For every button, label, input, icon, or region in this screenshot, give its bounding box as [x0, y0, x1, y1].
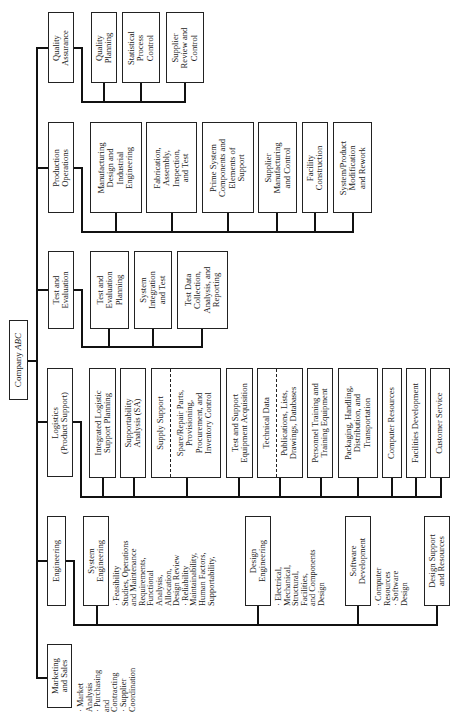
root-company-box: Company ABC [9, 320, 28, 400]
label-container: Fabrication,Assembly,Inspection,and Test [153, 147, 191, 188]
box-label: Supportability, [208, 540, 217, 606]
box-label: Manufacturing [273, 142, 282, 193]
eng-software-development-notes: · Computer Resources· Software Design [375, 568, 409, 606]
label-container: Supply Support [156, 396, 165, 450]
box-label: Engineering [125, 142, 134, 193]
box-label: Support [237, 138, 246, 196]
log-drop [133, 477, 135, 497]
label-container: SystemIntegrationand Test [139, 271, 167, 309]
label-container: System/ProductModificationand Rework [338, 140, 366, 194]
label-container: Packaging, Handling,Distribution, andTra… [344, 386, 372, 460]
log-packaging-handling: Packaging, Handling,Distribution, andTra… [338, 368, 378, 478]
box-label: Design [401, 568, 410, 606]
log-technical-data: Technical Data Publications, Lists,Drawi… [257, 368, 303, 478]
mkt-notes: · Market Analysis· Purchasing and Contra… [77, 668, 137, 712]
box-label: Analysis (SA) [133, 398, 142, 447]
label-container: SystemEngineering [87, 540, 106, 582]
eng-design-engineering-notes: · Electrical, Mechanical, Structural, Fa… [275, 549, 327, 606]
box-label: Collection, [193, 267, 202, 314]
log-facilities-development: Facilities Development [406, 368, 426, 478]
qa-bus [81, 101, 186, 103]
label-container: Technical Data [262, 397, 271, 449]
dept-engineering: Engineering [47, 516, 66, 606]
qa-drop [184, 82, 186, 102]
box-label: Engineering [52, 540, 61, 582]
prod-facility-construction: FacilityConstruction [302, 122, 328, 213]
box-label: Planning [114, 271, 123, 308]
eng-drop [96, 605, 98, 625]
label-container: QualityAssurance [52, 30, 71, 66]
box-label: Transportation [363, 386, 372, 460]
root-label: Company [13, 350, 23, 387]
te-planning: Test andEvaluationPlanning [90, 251, 129, 329]
box-label: Coordination [129, 668, 138, 712]
log-drop [320, 477, 322, 497]
box-label: Engineering [96, 540, 105, 582]
qa-conn-v [81, 47, 83, 103]
label-container: Publications, Lists,Drawings, Databases [276, 369, 302, 477]
label-container: Prime SystemComponents andElements ofSup… [209, 138, 247, 196]
qa-drop [140, 82, 142, 102]
te-drop [201, 328, 203, 347]
box-label: and Sales [60, 658, 69, 694]
eng-conn-v [73, 560, 75, 626]
label-container: Marketingand Sales [50, 658, 69, 694]
box-label: Modification [348, 140, 357, 194]
eng-bus [73, 624, 438, 626]
label-container: Engineering [52, 540, 61, 582]
te-conn-v [81, 289, 83, 348]
box-label: and Test [158, 271, 167, 309]
log-drop [186, 477, 188, 497]
main-spine [36, 47, 38, 679]
qa-supplier-review: SupplierReview andControl [166, 12, 204, 83]
eng-drop [257, 605, 259, 625]
qa-quality-planning: QualityPlanning [91, 12, 117, 83]
label-container: SupportabilityAnalysis (SA) [124, 398, 143, 447]
box-label: Training Equipment [320, 383, 329, 463]
box-label: and Rework [357, 140, 366, 194]
log-drop [238, 477, 240, 497]
log-drop [415, 477, 417, 497]
qa-drop [103, 82, 105, 102]
box-label: Reporting [212, 267, 221, 314]
box-label: Drawings, Databases [289, 387, 298, 460]
log-drop [279, 477, 281, 497]
label-container: Customer Service [435, 392, 444, 453]
label-container: Test andEvaluation [52, 271, 71, 308]
label-container: Spare/Repair Parts,Provisioning,Procurem… [170, 369, 220, 477]
te-drop [152, 328, 154, 347]
label-container: Spare/Repair Parts,Provisioning,Procurem… [176, 390, 214, 456]
dept-test-evaluation: Test andEvaluation [48, 251, 74, 329]
eng-drop [436, 605, 438, 625]
log-drop [102, 477, 104, 497]
box-label: and Test [181, 147, 190, 188]
prod-drop [314, 212, 316, 232]
box-label: Evaluation [61, 271, 70, 308]
box-label: Control [190, 27, 199, 68]
prod-system-modification: System/ProductModificationand Rework [333, 122, 372, 213]
label-container: SupplierReview andControl [171, 27, 199, 68]
label-container: Logistics(Product Support) [51, 392, 70, 454]
label-container: Facilities Development [411, 383, 420, 463]
log-supply-support: Supply Support Spare/Repair Parts,Provis… [151, 368, 221, 478]
box-label: Assurance [61, 30, 70, 66]
dept-logistics: Logistics(Product Support) [47, 368, 73, 477]
box-label: Assembly, [162, 147, 171, 188]
log-drop [357, 477, 359, 497]
label-container: Integrated LogisticSupport Planning [93, 390, 112, 455]
label-container: Personnel Training andTraining Equipment [311, 383, 330, 463]
box-label: Equipment Acquisition [240, 383, 249, 463]
label-container: Computer Resources [387, 387, 396, 459]
prod-drop [352, 212, 354, 232]
box-label: (Product Support) [60, 392, 69, 454]
label-container: QualityPlanning [95, 32, 114, 63]
log-computer-resources: Computer Resources [382, 368, 402, 478]
log-supportability-analysis: SupportabilityAnalysis (SA) [120, 368, 146, 478]
prod-supplier-manufacturing: SupplierManufacturingand Control [258, 122, 297, 213]
eng-design-support: Design Supportand Resources [424, 516, 450, 606]
box-label: and Resources [437, 534, 446, 588]
eng-drop [357, 605, 359, 625]
log-conn-v [80, 421, 82, 498]
label-container: SupplierManufacturingand Control [263, 142, 291, 193]
prod-fabrication: Fabrication,Assembly,Inspection,and Test [146, 122, 197, 213]
